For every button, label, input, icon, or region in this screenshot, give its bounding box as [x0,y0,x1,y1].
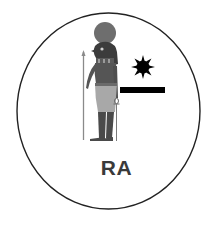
horizon-bar-icon [120,87,165,93]
deity-name-label: RA [0,156,215,180]
sun-icon [131,55,155,79]
ra-emblem [0,0,215,225]
